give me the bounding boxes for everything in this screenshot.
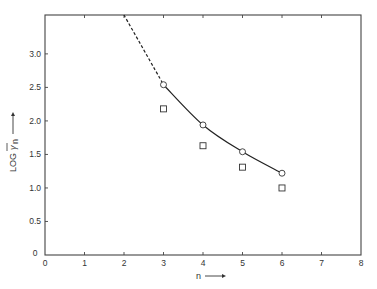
y-tick-label: 3.0	[29, 49, 41, 59]
x-tick-label: 7	[319, 258, 324, 268]
x-tick-label: 2	[122, 258, 127, 268]
x-tick-label: 3	[161, 258, 166, 268]
y-axis-label: LOG γ n	[7, 112, 20, 172]
square-marker	[200, 143, 206, 149]
svg-text:γ: γ	[8, 145, 18, 150]
dashed-extrapolation-line	[124, 15, 164, 85]
x-tick-label: 0	[43, 258, 48, 268]
x-arrowhead-icon	[222, 274, 226, 278]
svg-text:n: n	[196, 271, 201, 281]
circle-marker	[200, 122, 206, 128]
chart: 012345678 00.51.01.52.02.53.0 n LOG γ n	[0, 0, 377, 289]
circle-marker	[279, 170, 285, 176]
x-axis-ticks: 012345678	[43, 15, 364, 268]
x-tick-label: 8	[359, 258, 364, 268]
square-marker	[240, 164, 246, 170]
fitted-curve	[164, 85, 283, 173]
y-tick-label: 0.5	[29, 216, 41, 226]
y-tick-label: 1.5	[29, 149, 41, 159]
y-arrowhead-icon	[11, 112, 15, 116]
y-tick-label: 1.0	[29, 183, 41, 193]
svg-text:n: n	[10, 139, 20, 144]
square-marker	[161, 106, 167, 112]
x-axis-label: n	[196, 271, 226, 281]
square-marker	[279, 185, 285, 191]
x-tick-label: 5	[240, 258, 245, 268]
y-tick-label: 2.0	[29, 116, 41, 126]
x-tick-label: 1	[82, 258, 87, 268]
origin-label: 0	[33, 248, 38, 258]
x-tick-label: 4	[201, 258, 206, 268]
svg-text:LOG: LOG	[8, 153, 18, 172]
circle-marker	[161, 82, 167, 88]
y-tick-label: 2.5	[29, 82, 41, 92]
circle-marker	[240, 149, 246, 155]
x-tick-label: 6	[280, 258, 285, 268]
plot-frame	[45, 15, 361, 255]
plot-border	[45, 15, 361, 255]
data-series	[124, 15, 285, 191]
